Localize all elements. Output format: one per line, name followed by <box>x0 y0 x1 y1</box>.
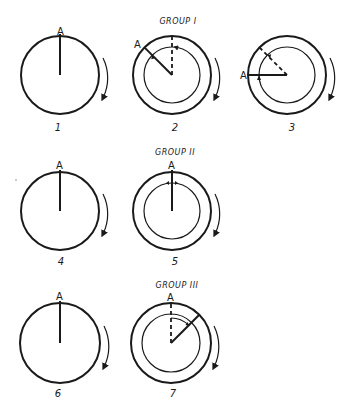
group-title-1: GROUP I <box>159 17 196 26</box>
radius-line-dashed <box>259 47 287 75</box>
figure-number: 3 <box>289 122 295 133</box>
radius-line-solid <box>171 315 199 343</box>
figure-number: 2 <box>172 122 178 133</box>
figure-7: A 7 <box>131 292 219 399</box>
inner-arrowhead-icon <box>166 181 169 185</box>
point-a-label: A <box>134 39 141 50</box>
clockwise-arrow-icon <box>104 326 109 367</box>
clockwise-arrow-icon <box>330 58 335 98</box>
clockwise-arrow-icon <box>215 194 220 234</box>
figure-4: A 4 <box>21 160 108 267</box>
point-a-label: A <box>57 26 64 37</box>
group-title-3: GROUP III <box>156 281 199 290</box>
figure-number: 1 <box>55 122 61 133</box>
radius-line-solid <box>144 47 172 75</box>
figure-number: 4 <box>58 256 64 267</box>
point-a-label: A <box>167 292 174 303</box>
diagram-canvas: GROUP I GROUP II GROUP III A 1 A 2 <box>0 0 350 418</box>
point-a-label: A <box>240 70 247 81</box>
group-title-2: GROUP II <box>155 148 195 157</box>
figure-number: 7 <box>170 388 177 399</box>
figure-1: A 1 <box>21 26 108 133</box>
clockwise-arrow-icon <box>103 58 108 98</box>
figure-5: A 5 <box>133 160 220 267</box>
inner-arrowhead-icon <box>174 46 178 50</box>
stray-dot <box>15 179 17 181</box>
point-a-label: A <box>168 160 175 171</box>
figure-number: 5 <box>172 256 178 267</box>
figure-6: A 6 <box>20 291 109 399</box>
figure-3: A 3 <box>240 36 335 133</box>
rotation-diagram: GROUP I GROUP II GROUP III A 1 A 2 <box>0 0 350 418</box>
clockwise-arrow-icon <box>214 326 219 367</box>
point-a-label: A <box>56 291 63 302</box>
clockwise-arrow-icon <box>215 58 220 98</box>
clockwise-arrow-icon <box>103 194 108 234</box>
figure-number: 6 <box>55 388 61 399</box>
point-a-label: A <box>56 160 63 171</box>
inner-arrowhead-icon <box>175 181 178 185</box>
